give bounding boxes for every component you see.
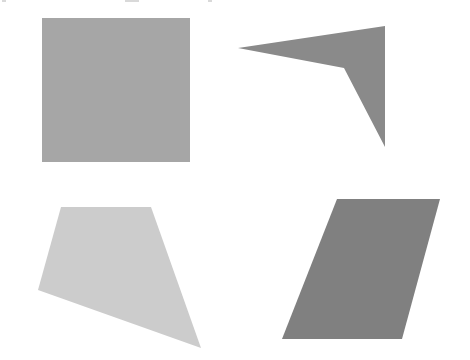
geometry-figure xyxy=(0,0,470,360)
cropped-text-fragment xyxy=(2,0,6,2)
cropped-text-fragments xyxy=(0,0,470,4)
square-shape xyxy=(42,18,190,162)
cropped-text-fragment xyxy=(208,0,212,2)
cropped-text-fragment xyxy=(125,0,139,2)
